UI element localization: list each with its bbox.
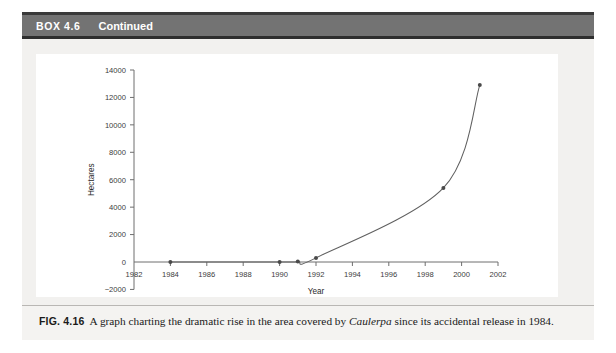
x-tick-label: 1996 <box>380 270 397 279</box>
data-series-line <box>170 85 479 264</box>
x-tick-label: 1982 <box>126 270 143 279</box>
caption-part-2: since its accidental release in 1984. <box>392 315 554 327</box>
y-tick-label: 4000 <box>109 203 126 212</box>
y-tick-label: 14000 <box>105 66 126 75</box>
caption-italic-term: Caulerpa <box>349 315 392 327</box>
data-point-marker <box>168 260 172 264</box>
chart-container: −200002000400060008000100001200014000198… <box>36 54 558 297</box>
caulerpa-growth-chart: −200002000400060008000100001200014000198… <box>36 54 558 297</box>
y-tick-label: 0 <box>122 258 126 267</box>
y-axis-title: Hectares <box>87 163 96 196</box>
data-point-marker <box>478 83 482 87</box>
x-axis-title: Year <box>308 287 325 296</box>
box-number-label: BOX 4.6 <box>36 20 80 32</box>
figure-caption: FIG. 4.16A graph charting the dramatic r… <box>39 315 580 329</box>
figure-number: FIG. 4.16 <box>39 315 85 327</box>
x-tick-label: 2000 <box>453 270 470 279</box>
y-tick-label: 8000 <box>109 148 126 157</box>
header-rule-bottom <box>22 36 594 39</box>
x-tick-label: 1988 <box>235 270 252 279</box>
y-tick-label: −2000 <box>105 285 126 294</box>
box-header-bar: BOX 4.6 Continued <box>22 12 594 39</box>
x-tick-label: 1984 <box>162 270 179 279</box>
x-tick-label: 1992 <box>308 270 325 279</box>
caption-band: FIG. 4.16A graph charting the dramatic r… <box>22 305 594 340</box>
caption-part-1: A graph charting the dramatic rise in th… <box>90 315 349 327</box>
data-point-marker <box>278 260 282 264</box>
chart-panel: −200002000400060008000100001200014000198… <box>36 54 558 297</box>
figure-page: BOX 4.6 Continued −200002000400060008000… <box>0 0 616 353</box>
box-continued-label: Continued <box>98 20 152 32</box>
data-point-marker <box>441 186 445 190</box>
y-tick-label: 2000 <box>109 230 126 239</box>
x-tick-label: 1994 <box>344 270 361 279</box>
y-tick-label: 6000 <box>109 176 126 185</box>
x-tick-label: 1986 <box>198 270 215 279</box>
x-tick-label: 1998 <box>417 270 434 279</box>
x-tick-label: 2002 <box>490 270 507 279</box>
data-point-marker <box>314 256 318 260</box>
x-tick-label: 1990 <box>271 270 288 279</box>
header-rule-top <box>22 12 594 15</box>
data-point-marker <box>296 260 300 264</box>
y-tick-label: 12000 <box>105 93 126 102</box>
y-tick-label: 10000 <box>105 121 126 130</box>
